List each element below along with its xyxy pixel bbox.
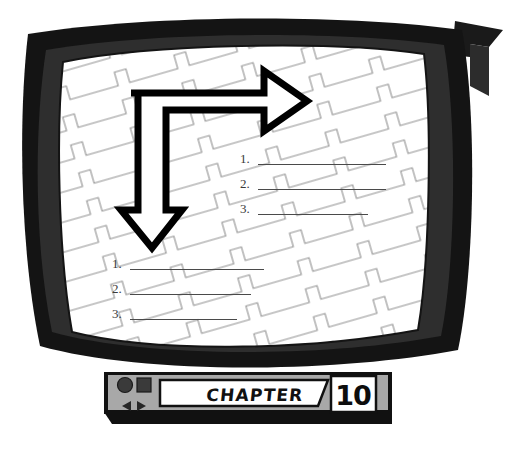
list-marker: 3. [240,202,250,215]
list-marker: 2. [240,177,250,190]
list-rule [130,269,264,270]
list-rule [130,319,237,320]
list-rule [130,294,251,295]
square-button[interactable] [137,378,151,392]
list-marker: 1. [240,152,250,165]
list-item: 2. [240,177,400,202]
list-item: 2. [112,282,282,307]
list-item: 3. [112,307,282,332]
chapter-label: CHAPTER [185,384,325,406]
list-rule [258,214,368,215]
list-marker: 1. [112,257,122,270]
list-rule [258,164,386,165]
list-marker: 3. [112,307,122,320]
list-rule [258,189,386,190]
illustration-canvas: 1. 2. 3. 1. 2. 3. CHAPTER 10 [0,0,513,450]
circle-button[interactable] [118,378,133,393]
screen-list-right: 1. 2. 3. [240,152,400,227]
list-marker: 2. [112,282,122,295]
list-item: 1. [240,152,400,177]
chapter-number: 10 [333,378,373,412]
screen-list-left: 1. 2. 3. [112,257,282,332]
list-item: 1. [112,257,282,282]
list-item: 3. [240,202,400,227]
